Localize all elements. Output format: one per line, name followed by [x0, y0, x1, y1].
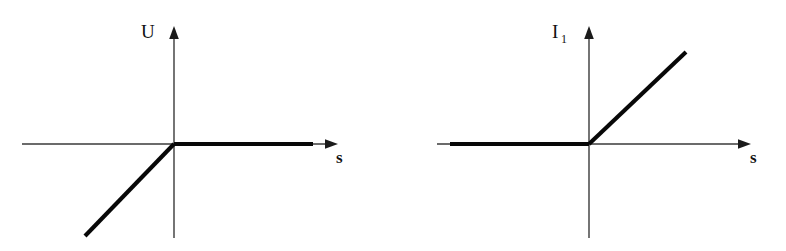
left-plot-group: U s	[22, 21, 343, 238]
right-plot-x-axis-label: s	[750, 148, 757, 167]
left-plot-x-axis-label: s	[336, 148, 343, 167]
left-plot-y-axis-arrowhead	[169, 26, 179, 39]
characteristic-curves-figure: U s I 1 s	[0, 0, 786, 251]
right-plot-y-axis-label: I	[552, 21, 558, 42]
left-plot-curve-ramp-segment	[85, 144, 174, 236]
left-plot-y-axis-label: U	[141, 21, 155, 42]
right-plot-y-axis-label-subscript: 1	[561, 32, 567, 46]
right-plot-curve-ramp-segment	[589, 52, 686, 144]
right-plot-group: I 1 s	[437, 21, 757, 238]
figure-canvas: U s I 1 s	[0, 0, 786, 251]
right-plot-y-axis-arrowhead	[584, 26, 594, 39]
